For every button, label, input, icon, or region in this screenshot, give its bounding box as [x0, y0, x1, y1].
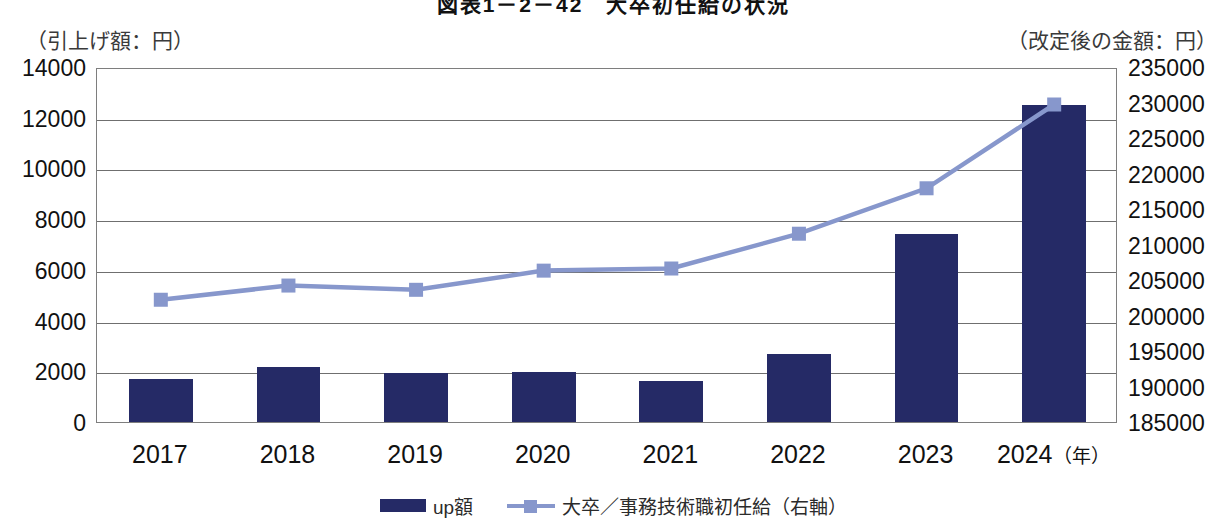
- left-tick-label: 0: [0, 410, 86, 437]
- line-marker-2023: [920, 181, 934, 195]
- right-axis-unit-caption: （改定後の金額：円）: [1007, 24, 1217, 54]
- right-tick-label: 190000: [1128, 374, 1227, 401]
- x-axis-unit-suffix: （年）: [1053, 446, 1110, 467]
- line-marker-2024: [1047, 98, 1061, 112]
- left-tick-label: 8000: [0, 207, 86, 234]
- line-markers: [154, 98, 1061, 307]
- x-tick-label-2017: 2017: [132, 440, 188, 469]
- x-tick-label-2023: 2023: [898, 440, 954, 469]
- legend-label-line: 大卒／事務技術職初任給（右軸）: [562, 492, 847, 519]
- right-tick-label: 225000: [1128, 126, 1227, 153]
- x-tick-label-2018: 2018: [260, 440, 316, 469]
- plot-area: [96, 68, 1117, 423]
- chart-legend: up額 大卒／事務技術職初任給（右軸）: [0, 492, 1227, 519]
- right-tick-label: 215000: [1128, 197, 1227, 224]
- bar-swatch-icon: [380, 499, 426, 512]
- right-tick-label: 205000: [1128, 268, 1227, 295]
- legend-label-bar: up額: [433, 492, 473, 519]
- chart-page: 図表1－2－42 大卒初任給の状況 （引上げ額：円） （改定後の金額：円） 02…: [0, 0, 1227, 526]
- right-tick-label: 230000: [1128, 90, 1227, 117]
- line-swatch-icon: [507, 499, 555, 513]
- left-tick-label: 10000: [0, 156, 86, 183]
- x-tick-label-2019: 2019: [387, 440, 443, 469]
- x-tick-label-2024: 2024（年）: [997, 440, 1110, 469]
- left-axis-unit-caption: （引上げ額：円）: [26, 24, 194, 54]
- chart-title: 図表1－2－42 大卒初任給の状況: [0, 0, 1227, 18]
- line-series: [97, 69, 1118, 424]
- line-marker-2018: [281, 279, 295, 293]
- x-tick-label-2021: 2021: [643, 440, 699, 469]
- left-tick-label: 6000: [0, 257, 86, 284]
- line-marker-2022: [792, 227, 806, 241]
- right-tick-label: 220000: [1128, 161, 1227, 188]
- line-path: [161, 105, 1054, 300]
- line-marker-2019: [409, 283, 423, 297]
- right-tick-label: 210000: [1128, 232, 1227, 259]
- right-tick-label: 185000: [1128, 410, 1227, 437]
- line-marker-2017: [154, 293, 168, 307]
- x-tick-label-2022: 2022: [770, 440, 826, 469]
- line-marker-2020: [537, 264, 551, 278]
- legend-item-bar: up額: [380, 492, 473, 519]
- left-tick-label: 12000: [0, 105, 86, 132]
- line-marker-2021: [664, 262, 678, 276]
- right-tick-label: 200000: [1128, 303, 1227, 330]
- right-tick-label: 195000: [1128, 339, 1227, 366]
- left-tick-label: 14000: [0, 55, 86, 82]
- left-tick-label: 2000: [0, 359, 86, 386]
- x-tick-label-2020: 2020: [515, 440, 571, 469]
- legend-item-line: 大卒／事務技術職初任給（右軸）: [507, 492, 847, 519]
- left-tick-label: 4000: [0, 308, 86, 335]
- right-tick-label: 235000: [1128, 55, 1227, 82]
